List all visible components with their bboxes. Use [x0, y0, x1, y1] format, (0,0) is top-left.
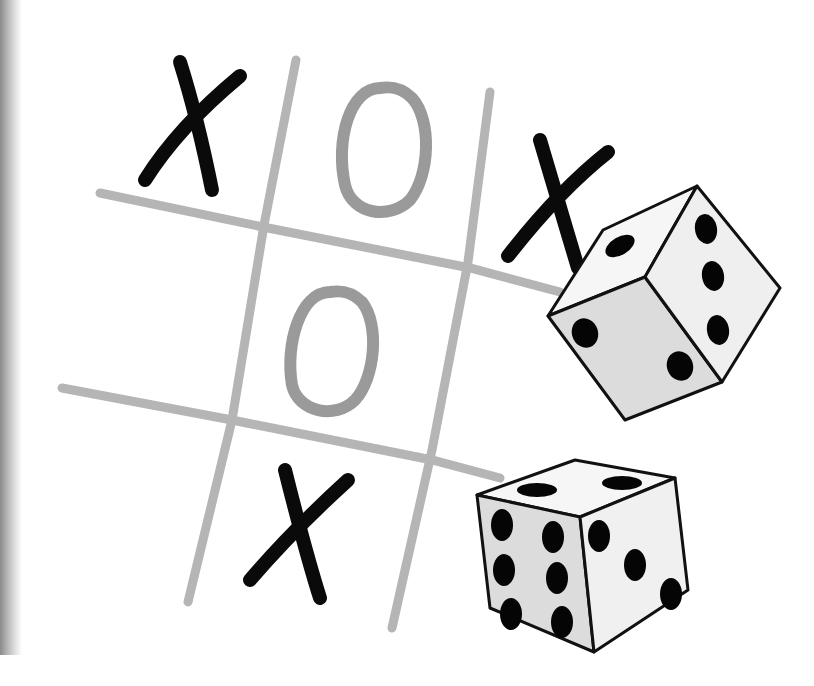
- o-mark-middle-center: [290, 291, 373, 411]
- upper-die: [548, 186, 780, 420]
- grid-line-vertical-right: [392, 92, 490, 628]
- x-mark-bottom-center: [250, 470, 348, 598]
- tic-tac-toe-dice-illustration: [0, 0, 814, 686]
- x-mark-top-left: [145, 62, 240, 190]
- o-mark-top-center: [342, 87, 426, 212]
- grid-line-horizontal-top: [100, 193, 560, 292]
- lower-die: [477, 460, 688, 652]
